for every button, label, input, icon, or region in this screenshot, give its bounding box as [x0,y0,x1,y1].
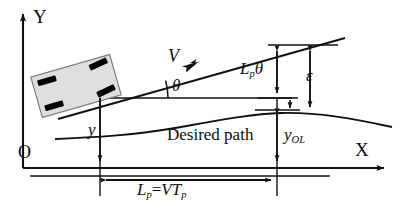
desired-path-label: Desired path [167,126,253,143]
velocity-arrow-head [182,62,199,73]
y-axis-label: Y [33,7,47,26]
x-axis-label: X [355,140,369,159]
preview-distance-velocity: V [161,180,171,199]
preview-offset-label: Lpθ [240,60,263,79]
preview-offset-angle: θ [255,59,263,78]
lookahead-offset-subscript: OL [292,134,305,145]
diagram-canvas [0,0,404,210]
preview-distance-label: Lp=VTp [137,181,186,200]
preview-distance-equals: = [152,180,162,199]
vehicle-body [31,55,121,118]
lookahead-offset-label: yOL [284,126,305,145]
velocity-label: V [168,47,179,65]
lateral-offset-label: y [88,121,96,138]
preview-distance-time: T [172,180,181,199]
origin-label: O [18,143,31,161]
vehicle [31,55,121,118]
path-tracking-diagram: Y X O V θ Lpθ ε y yOL Desired path Lp=VT… [0,0,404,210]
epsilon-label: ε [306,67,313,84]
lookahead-offset-base: y [284,125,292,144]
heading-angle-label: θ [172,77,180,94]
preview-distance-time-subscript: p [181,189,186,200]
